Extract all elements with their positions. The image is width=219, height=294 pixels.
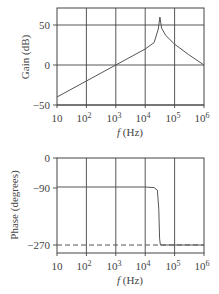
phase-ytick-0: 0 [45, 152, 51, 164]
bode-plot: 50 0 −50 Gain (dB) 10 102 103 104 105 10… [0, 0, 219, 294]
gain-ylabel: Gain (dB) [19, 35, 32, 80]
svg-text:105: 105 [166, 111, 181, 124]
phase-ytick-neg270: −270 [27, 239, 50, 251]
svg-text:106: 106 [195, 111, 210, 124]
svg-text:104: 104 [136, 111, 151, 124]
svg-text:103: 103 [107, 259, 122, 272]
gain-ytick-neg50: −50 [33, 99, 51, 111]
gain-ytick-0: 0 [45, 59, 51, 71]
svg-text:102: 102 [77, 259, 92, 272]
svg-text:106: 106 [195, 259, 210, 272]
svg-text:104: 104 [136, 259, 151, 272]
phase-xticks: 10 102 103 104 105 106 [52, 259, 210, 272]
svg-text:10: 10 [52, 260, 64, 272]
phase-xlabel: f (Hz) [117, 274, 143, 287]
phase-curve [57, 187, 204, 245]
svg-text:102: 102 [77, 111, 92, 124]
gain-ytick-50: 50 [39, 19, 51, 31]
svg-text:105: 105 [166, 259, 181, 272]
phase-ytick-neg90: −90 [33, 182, 51, 194]
phase-vgrid [86, 158, 174, 253]
gain-xticks: 10 102 103 104 105 106 [52, 111, 210, 124]
gain-curve [57, 17, 204, 97]
gain-plot: 50 0 −50 Gain (dB) 10 102 103 104 105 10… [19, 8, 210, 139]
phase-ylabel: Phase (degrees) [8, 170, 21, 240]
svg-text:103: 103 [107, 111, 122, 124]
phase-plot-frame [57, 158, 204, 253]
gain-xlabel: f (Hz) [117, 126, 143, 139]
svg-text:10: 10 [52, 112, 64, 124]
phase-plot: 0 −90 −270 Phase (degrees) 10 102 103 10… [8, 152, 210, 287]
gain-hgrid [53, 25, 204, 105]
